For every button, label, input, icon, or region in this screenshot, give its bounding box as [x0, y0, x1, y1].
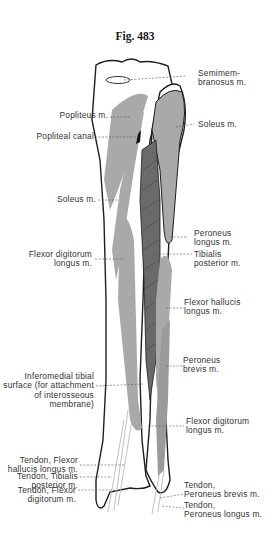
label-peroneus-longus: Peroneus longus m. [194, 229, 232, 248]
label-popliteal-canal: Popliteal canal [37, 132, 94, 141]
label-semimembranosus: Semimem- branosus m. [198, 69, 246, 88]
label-soleus-left: Soleus m. [57, 195, 96, 204]
label-flexor-digitorum-left: Flexor digitorum longus m. [29, 250, 92, 269]
label-tendon-peroneus-longus: Tendon, Peroneus longus m. [184, 501, 262, 520]
label-peroneus-brevis: Peroneus brevis m. [183, 356, 220, 375]
label-flexor-hallucis: Flexor hallucis longus m. [184, 298, 241, 317]
label-tibialis-posterior: Tibialis posterior m. [194, 250, 241, 269]
label-soleus-right: Soleus m. [198, 120, 237, 129]
label-inferomedial-surface: Inferomedial tibial surface (for attachm… [3, 372, 94, 410]
label-flexor-digitorum-right: Flexor digitorum longus m. [186, 417, 249, 436]
label-popliteus: Popliteus m. [60, 111, 108, 120]
label-tendon-flexor-digitorum: Tendon, Flexor digitorum m. [18, 486, 76, 505]
label-tendon-peroneus-brevis: Tendon, Peroneus brevis m. [184, 481, 260, 500]
